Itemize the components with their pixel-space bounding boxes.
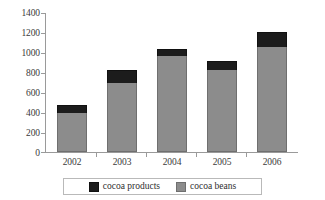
chart-legend: cocoa products cocoa beans xyxy=(63,178,262,195)
y-tick-label: 0 xyxy=(0,149,40,159)
legend-swatch-icon xyxy=(176,182,186,192)
bar-2005 xyxy=(207,61,237,152)
y-axis-labels: 1400 1200 1000 800 600 400 200 0 xyxy=(0,0,40,152)
bar-segment-cocoa-products xyxy=(207,61,237,70)
x-tick-label: 2004 xyxy=(152,158,192,168)
legend-label: cocoa products xyxy=(103,182,160,192)
bar-segment-cocoa-beans xyxy=(107,83,137,152)
y-tick-label: 200 xyxy=(0,129,40,139)
bar-2004 xyxy=(157,49,187,152)
x-tick-mark xyxy=(246,153,247,157)
bars-container xyxy=(46,13,298,152)
bar-segment-cocoa-beans xyxy=(207,70,237,152)
legend-swatch-icon xyxy=(89,182,99,192)
x-axis-line xyxy=(45,152,298,153)
bar-2002 xyxy=(57,105,87,152)
x-tick-mark xyxy=(196,153,197,157)
bar-segment-cocoa-products xyxy=(57,105,87,112)
x-tick-label: 2003 xyxy=(102,158,142,168)
y-tick-label: 1000 xyxy=(0,49,40,59)
x-axis-labels: 2002 2003 2004 2005 2006 xyxy=(46,158,298,172)
bar-2006 xyxy=(257,32,287,152)
legend-label: cocoa beans xyxy=(190,182,236,192)
bar-segment-cocoa-beans xyxy=(257,47,287,152)
bar-segment-cocoa-beans xyxy=(157,56,187,152)
y-tick-label: 1200 xyxy=(0,29,40,39)
bar-segment-cocoa-products xyxy=(257,32,287,47)
bar-2003 xyxy=(107,70,137,152)
bar-segment-cocoa-products xyxy=(157,49,187,56)
x-tick-label: 2006 xyxy=(252,158,292,168)
x-tick-label: 2005 xyxy=(202,158,242,168)
legend-item-cocoa-beans: cocoa beans xyxy=(176,182,236,192)
y-tick-label: 1400 xyxy=(0,9,40,19)
bar-segment-cocoa-products xyxy=(107,70,137,83)
x-tick-mark xyxy=(146,153,147,157)
y-tick-label: 600 xyxy=(0,89,40,99)
y-tick-label: 800 xyxy=(0,69,40,79)
x-tick-label: 2002 xyxy=(52,158,92,168)
bar-segment-cocoa-beans xyxy=(57,113,87,152)
x-tick-mark xyxy=(96,153,97,157)
plot-area: 1400 1200 1000 800 600 400 200 0 xyxy=(0,0,325,172)
legend-item-cocoa-products: cocoa products xyxy=(89,182,160,192)
y-tick-label: 400 xyxy=(0,109,40,119)
stacked-bar-chart: 1400 1200 1000 800 600 400 200 0 xyxy=(0,0,325,200)
